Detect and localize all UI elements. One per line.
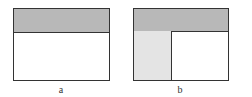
header-region-a [14, 9, 109, 33]
figure-label-b: b [170, 84, 190, 95]
layout-box-a [13, 8, 110, 81]
header-region-b [134, 9, 228, 32]
figure-label-a: a [51, 84, 71, 95]
layout-box-b [133, 8, 229, 81]
sidebar-region-b [134, 31, 172, 81]
